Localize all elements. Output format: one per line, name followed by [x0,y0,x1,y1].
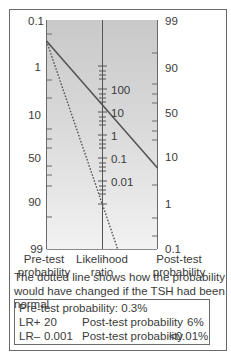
pretest-title-line1: Pre-test [14,253,74,266]
center-tick-label: 10 [111,107,124,119]
pretest-probability-text: Pre-test probability: 0.3% [19,301,147,315]
right-tick-label: 10 [165,151,178,163]
posttest-positive-label: Post-test probability [82,315,183,329]
posttest-positive-value: 6% [187,315,204,329]
right-tick-label: 90 [165,62,178,74]
posttest-negative-value: <0.01% [169,329,208,343]
right-tick-label: 99 [165,15,178,27]
center-tick-label: 0.1 [111,153,127,165]
right-tick-label: 50 [165,107,178,119]
posttest-title-line1: Post-test [146,253,212,266]
left-tick-label: 10 [14,109,41,121]
lr-negative-label: LR– [19,329,40,343]
lr-positive-label: LR+ [19,315,40,329]
lr-positive-value: 20 [44,315,57,329]
center-tick-label: 1 [111,130,117,142]
likelihood-title-line1: Likelihood [72,253,132,266]
center-tick-label: 100 [111,84,130,96]
negative-lr-line [47,41,119,250]
left-tick-label: 0.1 [14,15,44,27]
lr-negative-value: 0.001 [44,329,73,343]
left-tick-label: 90 [14,196,41,208]
left-tick-label: 1 [14,61,41,73]
left-tick-label: 50 [14,152,41,164]
results-box: Pre-test probability: 0.3% LR+ 20 Post-t… [14,299,210,345]
posttest-negative-label: Post-test probability [82,329,183,343]
center-tick-label: 0.01 [111,176,133,188]
right-tick-label: 1 [165,198,171,210]
